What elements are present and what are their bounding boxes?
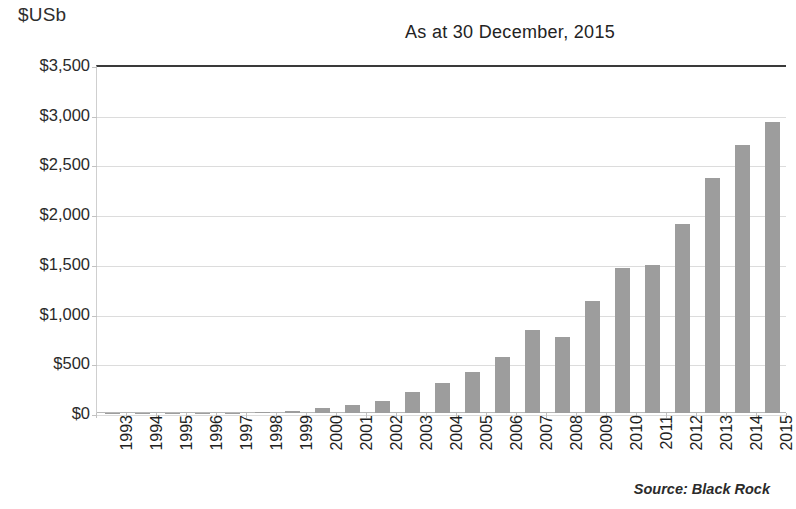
bar <box>465 372 480 413</box>
x-axis-tick-label: 2014 <box>748 415 766 477</box>
x-axis-tick-mark <box>96 413 97 418</box>
x-axis-tick-label: 1994 <box>148 415 166 477</box>
x-axis-tick-label: 1998 <box>268 415 286 477</box>
x-axis-tick-labels: 1993199419951996199719981999200020012002… <box>96 419 786 481</box>
x-axis-tick-label: 1996 <box>208 415 226 477</box>
x-axis-tick-label: 2008 <box>568 415 586 477</box>
x-axis-tick-label: 2012 <box>688 415 706 477</box>
bar <box>645 265 660 413</box>
plot-area <box>96 65 786 413</box>
x-axis-tick-label: 2013 <box>718 415 736 477</box>
x-axis-tick-label: 2000 <box>328 415 346 477</box>
bar <box>375 401 390 413</box>
x-axis-tick-label: 1993 <box>118 415 136 477</box>
bar <box>675 224 690 413</box>
bar <box>525 330 540 413</box>
x-axis-tick-label: 2010 <box>628 415 646 477</box>
x-axis-tick-label: 2004 <box>448 415 466 477</box>
bar <box>615 268 630 413</box>
x-axis-tick-label: 2005 <box>478 415 496 477</box>
bar <box>345 405 360 413</box>
x-axis-tick-label: 2006 <box>508 415 526 477</box>
bar <box>405 392 420 413</box>
x-axis-tick-label: 2009 <box>598 415 616 477</box>
x-axis-tick-label: 2002 <box>388 415 406 477</box>
y-axis-tick-label: $1,000 <box>4 304 90 323</box>
source-attribution: Source: Black Rock <box>634 481 770 497</box>
bar <box>765 122 780 413</box>
x-axis-tick-label: 1999 <box>298 415 316 477</box>
bar <box>435 383 450 413</box>
x-axis-tick-label: 2001 <box>358 415 376 477</box>
x-axis-tick-label: 1995 <box>178 415 196 477</box>
y-axis-tick-label: $3,500 <box>4 56 90 75</box>
y-axis-unit-label: $USb <box>18 4 66 26</box>
bar <box>495 357 510 413</box>
x-axis-tick-label: 2015 <box>778 415 796 477</box>
y-axis-tick-label: $500 <box>4 354 90 373</box>
y-axis-tick-label: $3,000 <box>4 105 90 124</box>
x-axis-tick-label: 2003 <box>418 415 436 477</box>
etf-assets-bar-chart: $USb As at 30 December, 2015 $0$500$1,00… <box>0 0 796 509</box>
y-axis-tick-label: $2,000 <box>4 205 90 224</box>
chart-title: As at 30 December, 2015 <box>300 22 720 43</box>
bars-layer <box>97 67 786 413</box>
bar <box>735 145 750 413</box>
bar <box>555 337 570 413</box>
x-axis-tick-label: 2007 <box>538 415 556 477</box>
y-axis-tick-label: $0 <box>4 404 90 423</box>
y-axis-tick-label: $1,500 <box>4 254 90 273</box>
x-axis-tick-label: 2011 <box>658 415 676 477</box>
bar <box>705 178 720 413</box>
y-axis-tick-label: $2,500 <box>4 155 90 174</box>
x-axis-tick-label: 1997 <box>238 415 256 477</box>
bar <box>585 301 600 413</box>
